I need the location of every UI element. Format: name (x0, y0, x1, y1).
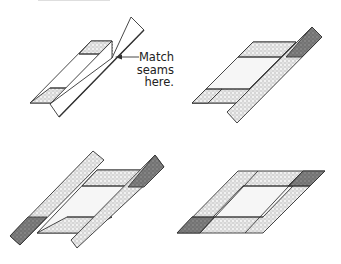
figure-step-4 (177, 171, 325, 233)
diagram-stage: Match seams here. (0, 0, 341, 264)
quilt-assembly-diagram (0, 0, 341, 264)
figure-step-3 (10, 151, 164, 248)
match-seams-callout: Match seams here. (132, 51, 174, 89)
figure-step-2 (192, 27, 322, 123)
clipped-header-text (38, 0, 110, 2)
callout-line-1: Match (132, 51, 174, 64)
figure-step-1 (30, 17, 144, 117)
callout-line-3: here. (132, 76, 174, 89)
folded-border-strip (50, 17, 144, 117)
